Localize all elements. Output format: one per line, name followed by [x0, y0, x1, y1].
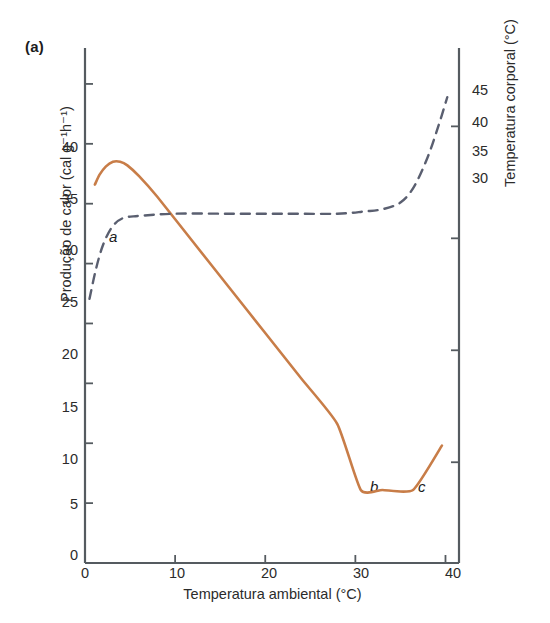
series-layer: [90, 97, 448, 492]
figure-panel-a: (a) Produção de calor (cal g⁻¹h⁻¹) Tempe…: [0, 0, 550, 623]
series-line-0: [95, 161, 442, 492]
plot-area: [0, 0, 550, 623]
series-line-1: [90, 97, 448, 299]
